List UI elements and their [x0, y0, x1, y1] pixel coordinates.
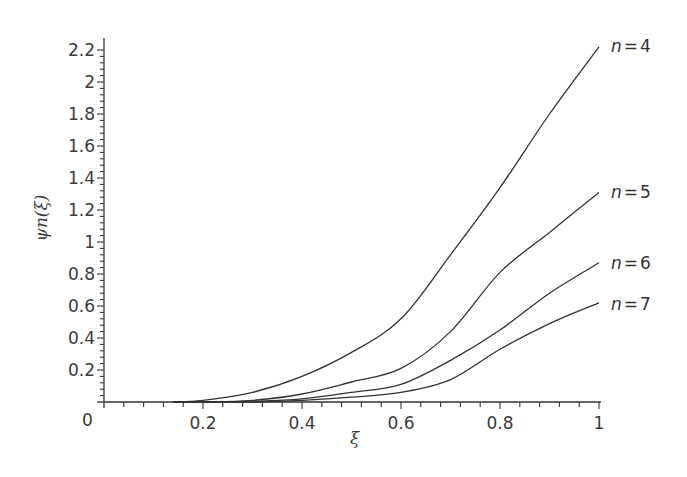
- y-tick-label: 1.2: [68, 200, 95, 220]
- y-tick-label: 2: [84, 72, 95, 92]
- x-tick-label: 0.8: [486, 413, 513, 433]
- x-tick-label: 0.6: [387, 413, 414, 433]
- series-line-n7: [173, 303, 599, 402]
- series-label-n7: n=7: [611, 294, 651, 314]
- y-tick-label: 1.6: [68, 136, 95, 156]
- y-tick-label: 1.8: [68, 104, 95, 124]
- curves: [173, 47, 599, 402]
- y-tick-label: 0.4: [68, 328, 95, 348]
- x-tick-label: 0.2: [189, 413, 216, 433]
- series-line-n4: [173, 47, 599, 402]
- line-chart: 0.20.40.60.810.20.40.60.811.21.41.61.822…: [0, 0, 687, 477]
- y-axis-label: ψn(ξ): [31, 195, 51, 242]
- y-tick-label: 0.2: [68, 360, 95, 380]
- x-tick-label: 1: [594, 413, 605, 433]
- y-tick-label: 0.8: [68, 264, 95, 284]
- series-line-n5: [173, 192, 599, 402]
- series-labels: n=4n=5n=6n=7: [611, 36, 651, 314]
- y-tick-label: 0.6: [68, 296, 95, 316]
- y-tick-label: 2.2: [68, 40, 95, 60]
- series-label-n4: n=4: [611, 36, 651, 56]
- y-tick-label: 1: [84, 232, 95, 252]
- y-tick-label: 1.4: [68, 168, 95, 188]
- x-axis-label: ξ: [350, 428, 361, 448]
- origin-label: 0: [82, 410, 93, 430]
- axes: 0.20.40.60.810.20.40.60.811.21.41.61.822…: [68, 38, 604, 433]
- series-label-n5: n=5: [611, 182, 651, 202]
- series-label-n6: n=6: [611, 253, 651, 273]
- x-tick-label: 0.4: [288, 413, 315, 433]
- series-line-n6: [173, 263, 599, 402]
